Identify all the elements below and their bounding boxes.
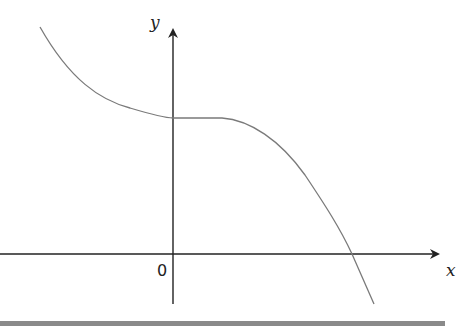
y-axis-label: y (149, 12, 160, 32)
x-axis-label: x (446, 260, 456, 280)
origin-label: 0 (157, 261, 167, 280)
function-curve (40, 27, 374, 304)
bottom-divider (0, 321, 445, 326)
function-graph: y x 0 (0, 0, 465, 328)
